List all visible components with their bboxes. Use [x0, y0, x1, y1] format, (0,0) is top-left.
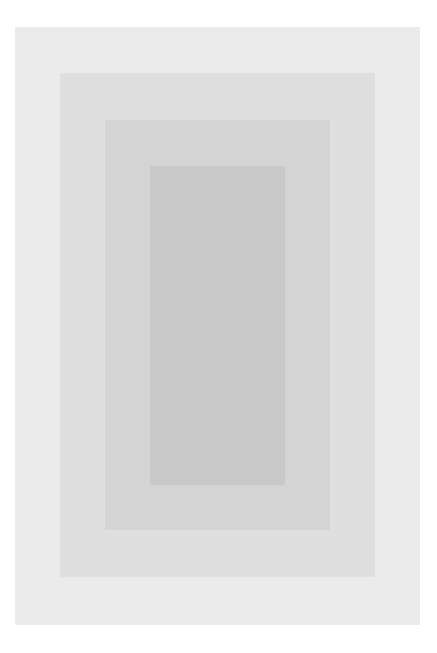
inner-rectangle [150, 166, 285, 485]
